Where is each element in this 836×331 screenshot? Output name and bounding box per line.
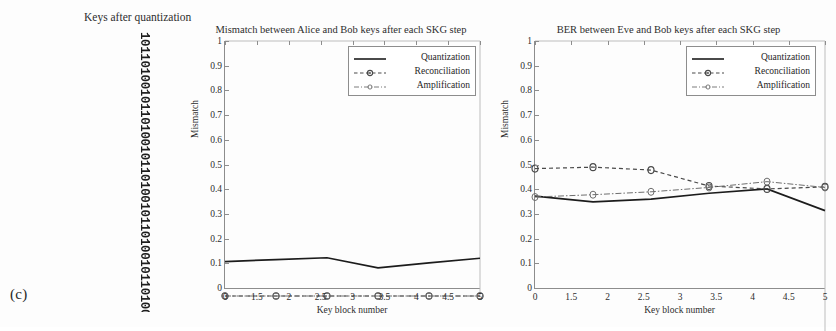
x-axis-tick-label: 0 [533,292,538,302]
chart-ber-eve-bob: BER between Eve and Bob keys after each … [506,20,831,320]
y-axis-tick-mark [535,214,539,215]
legend-sample-solid-icon [691,51,725,63]
legend-label: Reconciliation [392,66,470,76]
y-axis-tick-label: 0.9 [210,61,222,71]
y-axis-tick-mark [225,239,229,240]
y-axis-tick-mark [225,140,229,141]
x-axis-tick-mark [321,41,322,45]
legend-label: Amplification [392,80,470,90]
x-axis-tick-label: 3 [350,292,355,302]
y-axis-tick-mark [225,263,229,264]
x-axis-tick-label: 2 [286,292,291,302]
y-axis-tick-mark [535,66,539,67]
x-axis-tick-label: 2.5 [638,292,650,302]
y-axis-tick-label: 0 [217,283,222,293]
y-axis-tick-mark [225,90,229,91]
legend-sample-solid-icon [353,51,387,63]
x-axis-tick-mark [571,41,572,45]
legend-row: Quantization [353,50,470,64]
x-axis-tick-label: 4.5 [783,292,795,302]
x-axis-tick-mark [480,41,481,45]
x-axis-tick-label: 4 [414,292,419,302]
x-axis-tick-mark [535,41,536,45]
x-axis-tick-label: 4.5 [442,292,454,302]
y-axis-tick-mark [225,115,229,116]
y-axis-tick-mark [535,165,539,166]
y-axis-tick-label: 0.4 [520,184,532,194]
chart-legend: Quantization Reconciliation Amplificatio… [348,46,476,96]
x-axis-tick-mark [225,41,226,45]
x-axis-tick-mark [416,41,417,45]
legend-row: Reconciliation [353,64,470,78]
x-axis-tick-mark [448,41,449,45]
series-line-reconciliation [535,167,825,189]
quantized-key-bits: 1011010010110100101101001011010010110100… [133,32,155,312]
chart-title: Mismatch between Alice and Bob keys afte… [196,24,486,35]
panel-label: (c) [10,286,28,303]
y-axis-tick-mark [225,66,229,67]
y-axis-tick-label: 0.5 [210,160,222,170]
legend-row: Amplification [353,78,470,92]
y-axis-tick-label: 0.3 [520,209,532,219]
series-line-quantization [535,189,825,211]
x-axis-tick-label: 1.5 [565,292,577,302]
x-axis-tick-label: 4 [750,292,755,302]
y-axis-tick-mark [535,189,539,190]
legend-label: Amplification [730,80,810,90]
y-axis-tick-label: 0.6 [520,135,532,145]
y-axis-label: Mismatch [190,100,200,138]
x-axis-tick-label: 3.5 [710,292,722,302]
x-axis-tick-mark [644,41,645,45]
y-axis-tick-label: 0.9 [520,61,532,71]
legend-sample-dashed-circle-icon [691,65,725,77]
legend-row: Amplification [691,78,810,92]
y-axis-tick-label: 0.7 [210,110,222,120]
x-axis-tick-mark [753,41,754,45]
y-axis-tick-mark [225,189,229,190]
legend-label: Quantization [730,52,810,62]
y-axis-tick-label: 0.6 [210,135,222,145]
y-axis-tick-label: 1 [527,36,532,46]
x-axis-tick-label: 2.5 [315,292,327,302]
y-axis-tick-mark [535,90,539,91]
y-axis-tick-label: 0.7 [520,110,532,120]
x-axis-tick-mark [680,41,681,45]
legend-label: Reconciliation [730,66,810,76]
x-axis-tick-mark [716,41,717,45]
y-axis-tick-label: 0.3 [210,209,222,219]
keystrip-caption: Keys after quantization [84,11,191,23]
y-axis-tick-label: 0.8 [520,85,532,95]
legend-sample-dashdot-circle-icon [691,79,725,91]
y-axis-tick-label: 0.8 [210,85,222,95]
x-axis-tick-mark [789,41,790,45]
chart-legend: Quantization Reconciliation Amplificatio… [686,46,816,96]
chart-mismatch-alice-bob: Mismatch between Alice and Bob keys afte… [196,20,486,320]
y-axis-tick-label: 1 [217,36,222,46]
x-axis-tick-mark [353,41,354,45]
y-axis-tick-label: 0.5 [520,160,532,170]
y-axis-tick-label: 0.4 [210,184,222,194]
x-axis-tick-mark [257,41,258,45]
legend-sample-dashdot-circle-icon [353,79,387,91]
x-axis-tick-label: 1.5 [251,292,263,302]
y-axis-tick-mark [535,288,539,289]
y-axis-tick-label: 0 [527,283,532,293]
x-axis-label: Key block number [534,305,825,315]
y-axis-tick-label: 0.1 [210,258,222,268]
y-axis-tick-label: 0.2 [520,234,532,244]
y-axis-tick-label: 0.2 [210,234,222,244]
y-axis-label: Mismatch [500,100,510,138]
series-line-quantization [225,258,480,268]
x-axis-tick-mark [608,41,609,45]
y-axis-tick-mark [535,239,539,240]
x-axis-tick-mark [384,41,385,45]
x-axis-tick-mark [289,41,290,45]
quantized-key-bitstrip: 1011010010110100101101001011010010110100… [133,32,155,312]
y-axis-tick-mark [225,165,229,166]
x-axis-tick-label: 5 [823,292,828,302]
y-axis-tick-mark [225,288,229,289]
y-axis-tick-mark [535,115,539,116]
x-axis-tick-label: 0 [223,292,228,302]
legend-sample-dashed-circle-icon [353,65,387,77]
